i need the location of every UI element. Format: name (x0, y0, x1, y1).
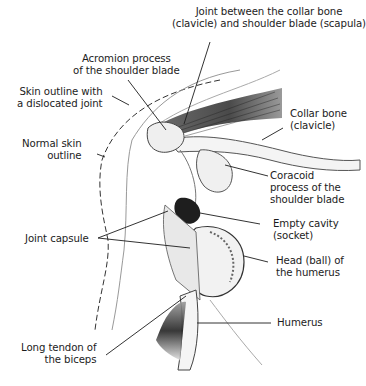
label-ac-joint: Joint between the collar bone (clavicle)… (172, 6, 366, 30)
label-coracoid: Coracoid process of the shoulder blade (270, 170, 344, 206)
label-joint-capsule: Joint capsule (25, 233, 89, 245)
label-humerus: Humerus (277, 317, 323, 329)
label-empty-cavity: Empty cavity (socket) (273, 218, 339, 242)
label-skin-dislocated: Skin outline with a dislocated joint (17, 86, 103, 110)
label-collar-bone: Collar bone (clavicle) (290, 108, 347, 132)
label-biceps-tendon: Long tendon of the biceps (21, 342, 96, 366)
acromion (147, 122, 184, 152)
label-humeral-head: Head (ball) of the humerus (276, 255, 344, 279)
coracoid (197, 150, 233, 192)
label-acromion: Acromion process of the shoulder blade (73, 53, 180, 77)
label-normal-skin: Normal skin outline (22, 138, 82, 162)
